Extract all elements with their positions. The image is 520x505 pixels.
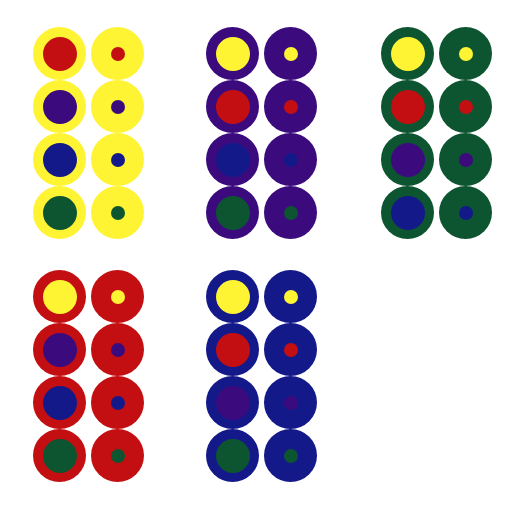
- disc-group-blue-surround: [206, 270, 317, 482]
- green-center-dot: [284, 206, 298, 220]
- blue-disc-yellow-large: [206, 270, 259, 323]
- blue-disc-green-small: [264, 429, 317, 482]
- blue-disc-purple-small: [264, 376, 317, 429]
- yellow-disc-green-large: [33, 186, 86, 239]
- red-center-dot: [216, 90, 250, 124]
- blue-disc-red-small: [264, 323, 317, 376]
- purple-disc-blue-large: [206, 133, 259, 186]
- purple-center-dot: [43, 90, 77, 124]
- blue-disc-purple-large: [206, 376, 259, 429]
- yellow-center-dot: [391, 37, 425, 71]
- green-center-dot: [43, 196, 77, 230]
- blue-disc-green-large: [206, 429, 259, 482]
- purple-center-dot: [216, 386, 250, 420]
- red-disc-blue-large: [33, 376, 86, 429]
- green-center-dot: [216, 196, 250, 230]
- green-center-dot: [284, 449, 298, 463]
- purple-disc-green-large: [206, 186, 259, 239]
- yellow-disc-blue-small: [91, 133, 144, 186]
- blue-disc-red-large: [206, 323, 259, 376]
- yellow-disc-blue-large: [33, 133, 86, 186]
- purple-disc-red-small: [264, 80, 317, 133]
- purple-disc-red-large: [206, 80, 259, 133]
- red-center-dot: [391, 90, 425, 124]
- purple-disc-yellow-small: [264, 27, 317, 80]
- blue-center-dot: [43, 143, 77, 177]
- red-disc-green-large: [33, 429, 86, 482]
- blue-center-dot: [43, 386, 77, 420]
- yellow-disc-red-large: [33, 27, 86, 80]
- green-disc-purple-large: [381, 133, 434, 186]
- red-center-dot: [111, 47, 125, 61]
- blue-center-dot: [216, 143, 250, 177]
- yellow-center-dot: [111, 290, 125, 304]
- red-disc-purple-small: [91, 323, 144, 376]
- green-disc-blue-small: [439, 186, 492, 239]
- red-center-dot: [284, 100, 298, 114]
- purple-disc-yellow-large: [206, 27, 259, 80]
- green-disc-purple-small: [439, 133, 492, 186]
- yellow-center-dot: [43, 280, 77, 314]
- green-disc-red-large: [381, 80, 434, 133]
- purple-center-dot: [284, 396, 298, 410]
- purple-center-dot: [111, 343, 125, 357]
- green-disc-yellow-large: [381, 27, 434, 80]
- blue-disc-yellow-small: [264, 270, 317, 323]
- blue-center-dot: [391, 196, 425, 230]
- purple-disc-green-small: [264, 186, 317, 239]
- green-center-dot: [111, 206, 125, 220]
- green-center-dot: [111, 449, 125, 463]
- purple-center-dot: [43, 333, 77, 367]
- disc-group-yellow-surround: [33, 27, 144, 239]
- red-disc-yellow-small: [91, 270, 144, 323]
- blue-center-dot: [111, 153, 125, 167]
- green-center-dot: [43, 439, 77, 473]
- purple-center-dot: [391, 143, 425, 177]
- yellow-disc-red-small: [91, 27, 144, 80]
- green-disc-yellow-small: [439, 27, 492, 80]
- yellow-center-dot: [284, 47, 298, 61]
- disc-group-green-surround: [381, 27, 492, 239]
- red-disc-blue-small: [91, 376, 144, 429]
- yellow-disc-purple-large: [33, 80, 86, 133]
- blue-center-dot: [111, 396, 125, 410]
- blue-center-dot: [459, 206, 473, 220]
- disc-group-red-surround: [33, 270, 144, 482]
- disc-group-purple-surround: [206, 27, 317, 239]
- purple-center-dot: [111, 100, 125, 114]
- yellow-disc-green-small: [91, 186, 144, 239]
- red-center-dot: [284, 343, 298, 357]
- yellow-center-dot: [216, 280, 250, 314]
- red-center-dot: [459, 100, 473, 114]
- yellow-disc-purple-small: [91, 80, 144, 133]
- green-disc-red-small: [439, 80, 492, 133]
- red-center-dot: [216, 333, 250, 367]
- green-center-dot: [216, 439, 250, 473]
- green-disc-blue-large: [381, 186, 434, 239]
- red-disc-purple-large: [33, 323, 86, 376]
- yellow-center-dot: [284, 290, 298, 304]
- blue-center-dot: [284, 153, 298, 167]
- yellow-center-dot: [459, 47, 473, 61]
- red-disc-yellow-large: [33, 270, 86, 323]
- purple-center-dot: [459, 153, 473, 167]
- yellow-center-dot: [216, 37, 250, 71]
- purple-disc-blue-small: [264, 133, 317, 186]
- red-disc-green-small: [91, 429, 144, 482]
- red-center-dot: [43, 37, 77, 71]
